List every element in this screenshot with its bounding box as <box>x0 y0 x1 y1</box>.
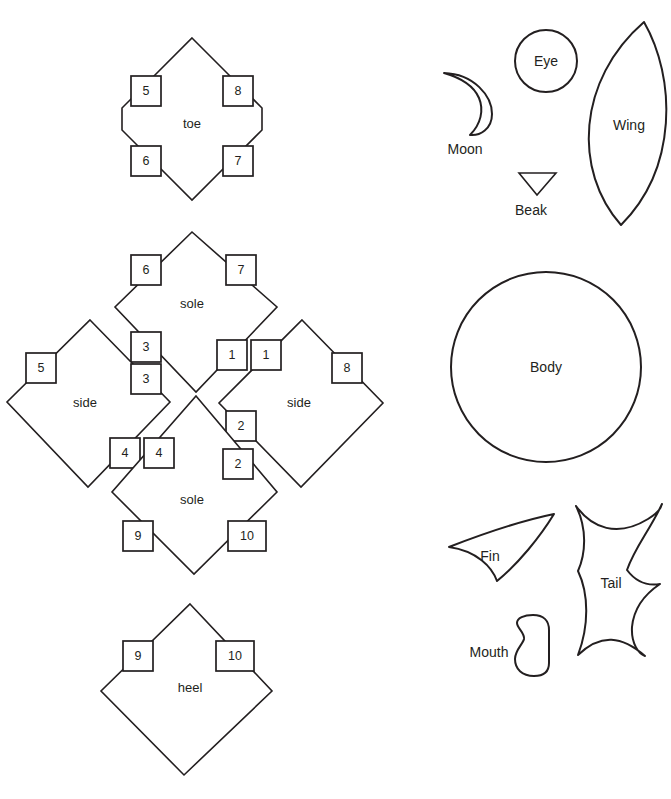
tab-number: 7 <box>235 154 242 168</box>
eye-label: Eye <box>534 53 558 69</box>
tab-number: 1 <box>263 348 270 362</box>
sole-top-tab-1: 1 <box>217 340 247 370</box>
sole-top-tab-7: 7 <box>226 255 256 285</box>
toe-tab-8: 8 <box>223 76 253 106</box>
sole-bottom-tab-10: 10 <box>228 521 266 551</box>
sole-bottom-label: sole <box>180 492 204 507</box>
mouth-outline <box>515 615 549 676</box>
sole-top-tab-3: 3 <box>131 332 161 362</box>
wing-label: Wing <box>613 117 645 133</box>
shape-eye: Eye <box>515 30 577 92</box>
shape-mouth: Mouth <box>470 615 549 676</box>
shape-beak: Beak <box>515 173 556 218</box>
heel-tab-10: 10 <box>216 641 254 671</box>
sole-bottom-tab-9: 9 <box>123 521 153 551</box>
side-left-tab-3: 3 <box>131 364 161 394</box>
moon-outline <box>444 73 492 135</box>
tab-number: 1 <box>229 348 236 362</box>
sole-bottom-tab-2: 2 <box>223 449 253 479</box>
tab-number: 5 <box>38 361 45 375</box>
toe-tab-5: 5 <box>131 76 161 106</box>
pattern-canvas: toe 5 8 6 7 sole 6 7 3 <box>0 0 671 799</box>
tail-label: Tail <box>600 575 621 591</box>
sole-bottom-tab-4: 4 <box>144 438 174 468</box>
beak-label: Beak <box>515 202 548 218</box>
tab-number: 9 <box>135 649 142 663</box>
sole-top-label: sole <box>180 296 204 311</box>
shape-moon: Moon <box>444 73 492 157</box>
tab-number: 2 <box>235 457 242 471</box>
fin-label: Fin <box>480 548 499 564</box>
heel-tab-9: 9 <box>123 641 153 671</box>
tab-number: 10 <box>228 649 242 663</box>
tab-number: 4 <box>122 446 129 460</box>
tab-number: 6 <box>143 263 150 277</box>
tab-number: 3 <box>143 340 150 354</box>
body-label: Body <box>530 359 562 375</box>
tab-number: 10 <box>240 529 254 543</box>
shape-fin: Fin <box>449 514 554 581</box>
shape-wing: Wing <box>589 22 667 225</box>
tab-number: 8 <box>235 84 242 98</box>
side-right-tab-8: 8 <box>332 353 362 383</box>
toe-label: toe <box>183 116 201 131</box>
side-left-tab-5: 5 <box>26 353 56 383</box>
toe-tab-6: 6 <box>131 146 161 176</box>
beak-outline <box>519 173 556 195</box>
sole-top-tab-6: 6 <box>131 255 161 285</box>
pattern-diagram: toe 5 8 6 7 sole 6 7 3 <box>0 0 671 799</box>
fin-outline <box>449 514 554 581</box>
tab-number: 5 <box>143 84 150 98</box>
tab-number: 3 <box>143 372 150 386</box>
toe-tab-7: 7 <box>223 146 253 176</box>
side-left-label: side <box>73 395 97 410</box>
side-right-label: side <box>287 395 311 410</box>
tab-number: 6 <box>143 154 150 168</box>
tab-number: 8 <box>344 361 351 375</box>
tab-number: 2 <box>238 419 245 433</box>
mouth-label: Mouth <box>470 644 509 660</box>
tab-number: 4 <box>156 446 163 460</box>
shape-body: Body <box>451 272 641 462</box>
piece-toe: toe 5 8 6 7 <box>122 38 262 200</box>
moon-label: Moon <box>447 141 482 157</box>
tab-number: 7 <box>238 263 245 277</box>
heel-label: heel <box>178 680 203 695</box>
shape-tail: Tail <box>576 504 662 656</box>
tab-number: 9 <box>135 529 142 543</box>
side-right-tab-1: 1 <box>251 340 281 370</box>
piece-heel: heel 9 10 <box>101 604 272 775</box>
side-left-tab-4: 4 <box>110 438 140 468</box>
